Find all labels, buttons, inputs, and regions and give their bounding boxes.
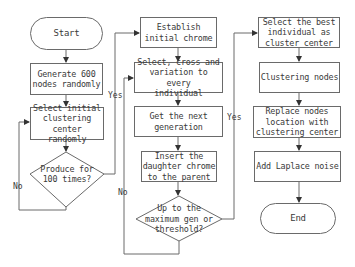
next-generation-box: Get the next generation bbox=[134, 106, 223, 137]
produce-no-label: No bbox=[13, 182, 23, 191]
add-laplace-noise-box: Add Laplace noise bbox=[254, 151, 341, 182]
max-yes-label: Yes bbox=[227, 113, 241, 122]
establish-chrome-box: Establish initial chrome bbox=[140, 17, 217, 48]
clustering-nodes-box: Clustering nodes bbox=[259, 62, 340, 93]
select-cross-variation-box: Select, cross and variation to every ind… bbox=[134, 62, 223, 93]
produce-decision-text: Produce for 100 times? bbox=[36, 163, 98, 185]
arrow-max-yes bbox=[222, 33, 257, 219]
arrow-produce-yes bbox=[104, 33, 139, 174]
max-no-label: No bbox=[118, 188, 128, 197]
select-initial-center-box: Select initial clustering center randoml… bbox=[30, 107, 104, 140]
replace-nodes-box: Replace nodes location with clustering c… bbox=[253, 106, 341, 138]
start-node: Start bbox=[30, 17, 103, 50]
produce-yes-label: Yes bbox=[108, 91, 122, 100]
max-decision-text: Up to the maximum gen or threshold? bbox=[143, 203, 215, 235]
select-best-box: Select the best individual as cluster ce… bbox=[258, 17, 340, 48]
insert-daughter-box: Insert the daughter chrome to the parent bbox=[141, 151, 217, 182]
generate-nodes-box: Generate 600 nodes randomly bbox=[30, 63, 103, 95]
end-node: End bbox=[260, 203, 336, 234]
